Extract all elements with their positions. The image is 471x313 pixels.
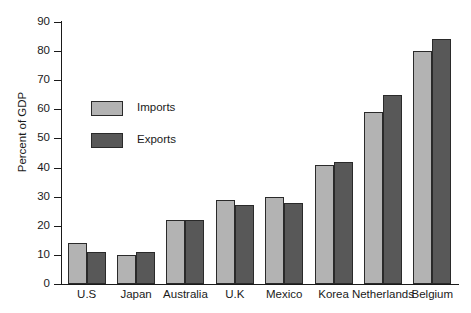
y-axis-tick bbox=[54, 109, 62, 110]
y-axis-tick-label: 50 bbox=[4, 132, 50, 144]
bar-imports bbox=[413, 51, 432, 284]
bar-group bbox=[364, 22, 402, 284]
y-axis-tick-label: 90 bbox=[4, 16, 50, 28]
y-axis-tick bbox=[54, 138, 62, 139]
y-axis-tick-label: 20 bbox=[4, 220, 50, 232]
bar-imports bbox=[68, 243, 87, 284]
bar-group bbox=[265, 22, 303, 284]
legend-swatch-icon bbox=[91, 133, 123, 148]
legend-item: Exports bbox=[91, 129, 176, 151]
bar-imports bbox=[216, 200, 235, 284]
bar-chart: Percent of GDP 9080706050403020100 U.SJa… bbox=[0, 0, 471, 313]
y-axis-tick-labels: 9080706050403020100 bbox=[0, 0, 50, 313]
y-axis-tick-label: 80 bbox=[4, 45, 50, 57]
bar-imports bbox=[166, 220, 185, 284]
bar-exports bbox=[284, 203, 303, 285]
legend-label: Imports bbox=[137, 102, 175, 114]
y-axis-tick-label: 70 bbox=[4, 74, 50, 86]
y-axis-tick-label: 40 bbox=[4, 162, 50, 174]
y-axis-tick bbox=[54, 197, 62, 198]
bar-exports bbox=[185, 220, 204, 284]
bar-imports bbox=[117, 255, 136, 284]
bar-exports bbox=[136, 252, 155, 284]
y-axis-tick bbox=[54, 51, 62, 52]
bar-imports bbox=[315, 165, 334, 284]
bar-imports bbox=[364, 112, 383, 284]
x-axis-line bbox=[61, 284, 459, 285]
x-axis-tick-label: Belgium bbox=[393, 289, 471, 301]
y-axis-tick bbox=[54, 226, 62, 227]
y-axis-tick bbox=[54, 22, 62, 23]
bar-exports bbox=[334, 162, 353, 284]
bar-exports bbox=[87, 252, 106, 284]
legend-item: Imports bbox=[91, 97, 176, 119]
bar-exports bbox=[432, 39, 451, 284]
bar-exports bbox=[235, 205, 254, 284]
chart-legend: ImportsExports bbox=[91, 97, 176, 161]
y-axis-tick-label: 30 bbox=[4, 191, 50, 203]
legend-label: Exports bbox=[137, 134, 176, 146]
y-axis-tick-label: 60 bbox=[4, 103, 50, 115]
bar-exports bbox=[383, 95, 402, 284]
bar-imports bbox=[265, 197, 284, 284]
bar-group bbox=[315, 22, 353, 284]
y-axis-tick-label: 10 bbox=[4, 249, 50, 261]
y-axis-tick bbox=[54, 80, 62, 81]
bar-group bbox=[216, 22, 254, 284]
legend-swatch-icon bbox=[91, 101, 123, 116]
y-axis-tick bbox=[54, 168, 62, 169]
y-axis-tick bbox=[54, 284, 62, 285]
y-axis-tick bbox=[54, 255, 62, 256]
y-axis-tick-label: 0 bbox=[4, 278, 50, 290]
bar-group bbox=[413, 22, 451, 284]
